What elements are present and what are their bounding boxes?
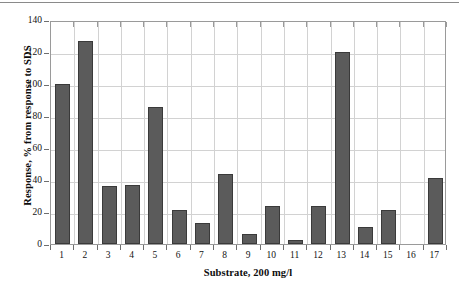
y-axis-tick-mark bbox=[44, 181, 49, 182]
x-axis-tick-mark-top bbox=[399, 22, 400, 27]
chart-figure: Response, % from response to SDS 0204060… bbox=[0, 0, 459, 288]
y-axis-tick-label: 100 bbox=[0, 80, 42, 90]
bar-7 bbox=[195, 223, 210, 244]
x-axis-tick-mark-top bbox=[330, 22, 331, 27]
bar-10 bbox=[265, 206, 280, 244]
bar-14 bbox=[358, 227, 373, 244]
x-axis-tick-mark-top bbox=[97, 22, 98, 27]
y-axis-tick-label: 140 bbox=[0, 16, 42, 26]
bar-3 bbox=[102, 186, 117, 244]
x-axis-tick-mark-top bbox=[283, 22, 284, 27]
y-axis-tick-label: 0 bbox=[0, 240, 42, 250]
x-axis-tick-mark bbox=[190, 245, 191, 250]
bar-12 bbox=[311, 206, 326, 244]
bar-8 bbox=[218, 174, 233, 244]
x-axis-tick-mark-top bbox=[213, 22, 214, 27]
y-axis-tick-labels: 020406080100120140 bbox=[0, 0, 46, 288]
x-axis-tick-mark bbox=[376, 245, 377, 250]
x-axis-tick-mark bbox=[213, 245, 214, 250]
bar-6 bbox=[172, 210, 187, 244]
y-axis-tick-label: 80 bbox=[0, 112, 42, 122]
plot-area bbox=[50, 21, 446, 245]
x-axis-tick-mark bbox=[353, 245, 354, 250]
x-axis-tick-mark-top bbox=[143, 22, 144, 27]
bar-15 bbox=[381, 210, 396, 244]
bar-5 bbox=[148, 107, 163, 244]
bar-1 bbox=[55, 84, 70, 244]
x-axis-tick-mark bbox=[166, 245, 167, 250]
x-axis-tick-mark-top bbox=[306, 22, 307, 27]
x-axis-tick-mark-top bbox=[353, 22, 354, 27]
y-axis-tick-mark bbox=[44, 245, 49, 246]
bar-17 bbox=[428, 178, 443, 244]
x-axis-title: Substrate, 200 mg/l bbox=[50, 267, 446, 278]
x-axis-tick-mark-top bbox=[73, 22, 74, 27]
x-axis-tick-mark bbox=[283, 245, 284, 250]
y-axis-tick-mark bbox=[44, 85, 49, 86]
bar-4 bbox=[125, 185, 140, 244]
y-axis-tick-label: 60 bbox=[0, 144, 42, 154]
y-axis-tick-label: 20 bbox=[0, 208, 42, 218]
bar-series bbox=[51, 22, 445, 244]
x-axis-tick-mark bbox=[236, 245, 237, 250]
x-axis-tick-mark-top bbox=[423, 22, 424, 27]
x-axis-tick-mark-top bbox=[166, 22, 167, 27]
x-axis-tick-mark bbox=[50, 245, 51, 250]
x-axis-tick-mark bbox=[446, 245, 447, 250]
x-axis-tick-mark bbox=[97, 245, 98, 250]
y-axis-tick-mark bbox=[44, 213, 49, 214]
bar-13 bbox=[335, 52, 350, 244]
x-axis-tick-mark bbox=[330, 245, 331, 250]
x-axis-tick-mark-top bbox=[50, 22, 51, 27]
x-axis-tick-mark-top bbox=[190, 22, 191, 27]
bar-9 bbox=[242, 234, 257, 244]
y-axis-tick-label: 120 bbox=[0, 48, 42, 58]
y-axis-tick-mark bbox=[44, 149, 49, 150]
x-axis-tick-mark-top bbox=[376, 22, 377, 27]
x-axis-tick-mark bbox=[73, 245, 74, 250]
bar-11 bbox=[288, 240, 303, 244]
x-axis-tick-mark-top bbox=[120, 22, 121, 27]
y-axis-tick-mark bbox=[44, 53, 49, 54]
x-axis-tick-label: 17 bbox=[419, 251, 449, 261]
x-axis-tick-mark-top bbox=[260, 22, 261, 27]
y-axis-tick-mark bbox=[44, 117, 49, 118]
x-axis-tick-mark bbox=[399, 245, 400, 250]
x-axis-tick-mark bbox=[120, 245, 121, 250]
x-axis-tick-mark bbox=[260, 245, 261, 250]
x-axis-tick-mark bbox=[423, 245, 424, 250]
y-axis-tick-mark bbox=[44, 21, 49, 22]
x-axis-tick-mark bbox=[143, 245, 144, 250]
bar-2 bbox=[78, 41, 93, 244]
x-axis-tick-mark bbox=[306, 245, 307, 250]
x-axis-tick-mark-top bbox=[446, 22, 447, 27]
x-axis-tick-mark-top bbox=[236, 22, 237, 27]
y-axis-tick-label: 40 bbox=[0, 176, 42, 186]
